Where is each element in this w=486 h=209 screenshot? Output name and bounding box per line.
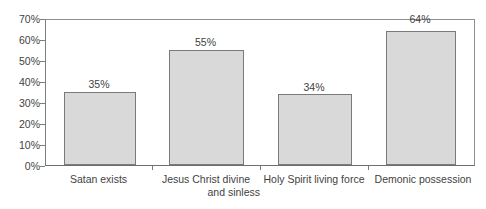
plot-area — [45, 19, 475, 166]
bar-value-label: 34% — [277, 81, 351, 93]
y-tick-label: 70% — [2, 14, 40, 25]
y-axis: 70% 60% 50% 40% 30% 20% 10% 0% — [0, 0, 40, 209]
bar-value-label: 55% — [168, 36, 243, 48]
x-tick-mark — [152, 166, 153, 170]
y-tick-label: 10% — [2, 140, 40, 151]
y-tick-label: 60% — [2, 35, 40, 46]
bar-demonic-possession — [386, 31, 456, 165]
x-category-line: and sinless — [152, 186, 260, 199]
x-category-line: Jesus Christ divine — [162, 173, 250, 185]
bar-value-label: 64% — [385, 13, 455, 25]
bar-value-label: 35% — [63, 78, 135, 90]
x-tick-mark — [368, 166, 369, 170]
x-category-label-jesus-christ-divine-and-sinless: Jesus Christ divine and sinless — [152, 173, 260, 199]
y-tick-mark — [40, 166, 45, 167]
x-category-line: Demonic possession — [375, 173, 472, 185]
x-tick-mark — [260, 166, 261, 170]
bar-jesus-christ-divine-and-sinless — [169, 50, 244, 166]
bar-chart: 70% 60% 50% 40% 30% 20% 10% 0% 35% 55% 3… — [0, 0, 486, 209]
x-category-label-holy-spirit-living-force: Holy Spirit living force — [260, 173, 368, 186]
y-tick-label: 50% — [2, 56, 40, 67]
y-tick-label: 40% — [2, 77, 40, 88]
y-tick-label: 0% — [2, 161, 40, 172]
y-tick-label: 30% — [2, 98, 40, 109]
x-category-label-demonic-possession: Demonic possession — [368, 173, 478, 186]
bar-satan-exists — [64, 92, 136, 166]
x-category-line: Satan exists — [70, 173, 127, 185]
x-category-label-satan-exists: Satan exists — [45, 173, 152, 186]
bar-holy-spirit-living-force — [278, 94, 352, 165]
x-category-line: Holy Spirit living force — [264, 173, 365, 185]
y-tick-label: 20% — [2, 119, 40, 130]
